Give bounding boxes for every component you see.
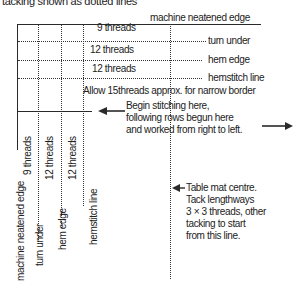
hemstitch-vertical-tack-line [83,24,84,206]
label-hemstitch-line: hemstitch line [208,72,264,83]
side-label-hemstitch-line: hemstitch line [88,189,99,245]
top-machine-edge-line [18,24,261,25]
side-label-machine-neatened-edge: machine neatened edge [15,181,26,281]
arrow-right-icon [262,121,293,131]
diagram-title: tacking shown as dotted lines [2,0,137,7]
vertical-thread-count-9: 9 threads [22,136,33,175]
centre-note-line5: from this line. [186,230,240,241]
allow-threads-note: Allow 15threads approx. for narrow borde… [83,85,255,96]
side-label-hem-edge: hem edge [57,208,68,250]
arrow-left-centre-icon [172,183,186,193]
begin-note-line1: Begin stitching here, [126,100,209,111]
hem-edge-tack-line [18,60,202,61]
turn-under-tack-line [18,41,206,42]
centre-note-line1: Table mat centre. [186,182,257,193]
begin-note-line2: following rows begun here [126,112,233,123]
centre-note-line2: Tack lengthways [186,194,254,205]
begin-stitch-line [18,111,92,112]
label-hem-edge: hem edge [208,54,250,65]
thread-count-9: 9 threads [97,22,136,33]
vertical-thread-count-12b: 12 threads [67,136,78,180]
left-machine-edge-line [17,24,18,150]
vertical-thread-count-12a: 12 threads [44,136,55,180]
side-label-turn-under: turn under [34,224,45,266]
hemstitch-tack-line [18,78,202,79]
centre-tack-line [170,24,171,279]
hem-edge-vertical-tack-line [61,24,62,228]
centre-note-line3: 3 × 3 threads, other [186,206,266,217]
label-machine-neatened-edge: machine neatened edge [150,12,250,23]
thread-count-12a: 12 threads [90,44,134,55]
centre-note-line4: tacking to start [186,218,245,229]
arrow-left-icon [98,106,126,116]
label-turn-under: turn under [208,35,250,46]
thread-count-12b: 12 threads [92,63,136,74]
begin-note-line3: and worked from right to left. [126,124,242,135]
turn-under-vertical-tack-line [38,24,39,244]
